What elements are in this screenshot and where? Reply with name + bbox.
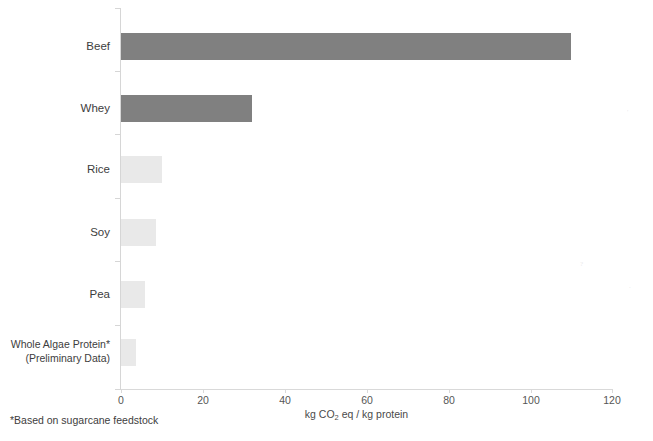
bar-soy [121,219,156,246]
x-axis-title-subscript: 2 [335,413,339,422]
x-axis-tick [121,389,122,393]
category-label-soy: Soy [0,225,110,239]
footnote: *Based on sugarcane feedstock [10,414,158,426]
x-axis-tick-label: 80 [443,394,455,406]
category-label-pea: Pea [0,287,110,301]
bar-whole-algae-protein [121,339,136,366]
x-axis-tick-label: 120 [603,394,621,406]
category-label-rice: Rice [0,162,110,176]
scan-artifact: ? [580,260,583,268]
x-axis-tick-label: 20 [197,394,209,406]
y-axis-tick [115,325,121,326]
bar-rice [121,156,162,183]
x-axis-tick-label: 100 [522,394,540,406]
scan-artifact: . [629,282,631,290]
y-axis-tick [115,71,121,72]
y-axis-tick [115,198,121,199]
x-axis-tick-label: 40 [279,394,291,406]
x-axis-tick-label: 0 [118,394,124,406]
x-axis-tick [531,389,532,393]
category-label-whole-algae-protein: Whole Algae Protein* (Preliminary Data) [0,338,110,365]
x-axis-tick [449,389,450,393]
x-axis-tick [612,389,613,393]
bar-beef [121,33,571,60]
category-label-whey: Whey [0,101,110,115]
x-axis-title-suffix: eq / kg protein [339,408,408,420]
category-label-beef: Beef [0,39,110,53]
bar-pea [121,281,145,308]
x-axis-tick [203,389,204,393]
scan-artifact: ' [627,108,628,116]
bar-whey [121,95,252,122]
x-axis-tick-label: 60 [361,394,373,406]
y-axis-tick [115,8,121,9]
x-axis-tick [285,389,286,393]
y-axis-tick [115,134,121,135]
x-axis-title-prefix: kg CO [305,408,335,420]
y-axis-tick [115,261,121,262]
x-axis-tick [367,389,368,393]
bar-chart: Beef Whey Rice Soy Pea Whole Algae Prote… [0,0,653,441]
